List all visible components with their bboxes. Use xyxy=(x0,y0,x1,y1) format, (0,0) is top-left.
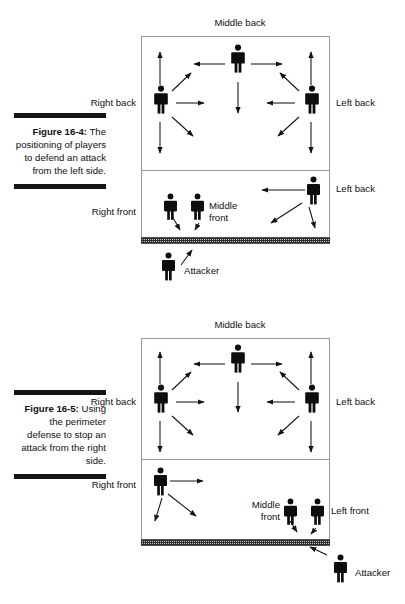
label-attacker: Attacker xyxy=(355,567,390,579)
label-right-back: Right back xyxy=(56,97,136,109)
net xyxy=(141,539,330,546)
net xyxy=(141,237,330,244)
attack-line xyxy=(142,170,329,171)
caption-rule-bottom xyxy=(14,184,106,189)
right-back-player xyxy=(151,384,171,413)
figure-16-4-caption-text: Figure 16-4: The positioning of players … xyxy=(14,118,106,184)
middle-front-player xyxy=(188,193,207,220)
right-back-player xyxy=(151,85,171,114)
figure-16-4-caption-number: Figure 16-4: xyxy=(33,126,87,137)
label-right-front: Right front xyxy=(48,206,136,218)
figure-16-4-caption-block: Figure 16-4: The positioning of players … xyxy=(14,113,106,189)
left-front-player xyxy=(308,498,327,525)
label-middle-back: Middle back xyxy=(185,17,295,29)
left-back-player xyxy=(302,85,322,114)
middle-front-player xyxy=(281,498,300,525)
label-left-back-front: Left back xyxy=(336,183,375,195)
attacker-player xyxy=(159,252,178,281)
label-left-front: Left front xyxy=(331,505,369,517)
attack-line xyxy=(142,459,329,460)
label-left-back: Left back xyxy=(336,97,375,109)
label-right-front: Right front xyxy=(48,479,136,491)
label-right-back: Right back xyxy=(56,396,136,408)
right-front-player xyxy=(161,193,180,220)
figure-16-5: Figure 16-5: Using the perimeter defense… xyxy=(0,302,405,604)
left-back-player xyxy=(302,384,322,413)
label-middle-back: Middle back xyxy=(185,319,295,331)
middle-back-player xyxy=(228,44,248,73)
label-middle-front: Middle front xyxy=(236,499,280,522)
label-left-back: Left back xyxy=(336,396,375,408)
middle-back-player xyxy=(228,344,248,373)
right-front-player xyxy=(151,467,170,496)
figure-16-4: Figure 16-4: The positioning of players … xyxy=(0,0,405,302)
attacker-player xyxy=(331,554,350,583)
label-attacker: Attacker xyxy=(184,265,219,277)
left-back-frontcourt-player xyxy=(304,176,323,205)
label-middle-front: Middle front xyxy=(209,200,253,223)
